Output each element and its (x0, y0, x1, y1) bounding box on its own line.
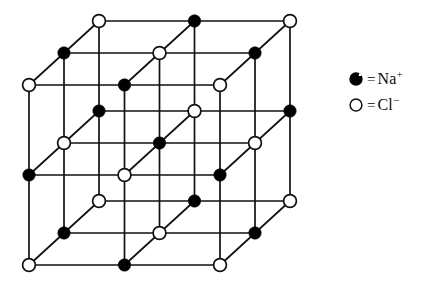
lattice-diagram (0, 0, 445, 290)
lattice-node-sodium (249, 227, 261, 239)
lattice-node-chloride (153, 227, 166, 240)
lattice-node-chloride (23, 79, 36, 92)
lattice-node-sodium (93, 105, 105, 117)
filled-circle-icon (348, 71, 364, 87)
lattice-node-chloride (153, 47, 166, 60)
lattice-nodes (23, 15, 297, 272)
lattice-node-sodium (118, 259, 130, 271)
lattice-node-chloride (214, 79, 227, 92)
lattice-node-chloride (249, 137, 262, 150)
lattice-node-sodium (23, 169, 35, 181)
lattice-node-sodium (249, 47, 261, 59)
legend-label-sodium: Na+ (377, 71, 402, 87)
lattice-node-chloride (284, 15, 297, 28)
lattice-node-chloride (284, 195, 297, 208)
lattice-node-sodium (58, 227, 70, 239)
lattice-node-chloride (93, 15, 106, 28)
lattice-node-chloride (23, 259, 36, 272)
lattice-node-sodium (118, 79, 130, 91)
lattice-node-sodium (153, 137, 165, 149)
legend-item-chloride: = Cl− (348, 92, 443, 118)
legend: = Na+ = Cl− (348, 66, 443, 118)
nacl-lattice-figure: = Na+ = Cl− (0, 0, 445, 290)
lattice-node-sodium (58, 47, 70, 59)
legend-label-chloride: Cl− (377, 97, 399, 113)
open-circle-icon (348, 97, 364, 113)
legend-item-sodium: = Na+ (348, 66, 443, 92)
legend-equals-chloride: = (367, 98, 375, 113)
lattice-node-sodium (284, 105, 296, 117)
lattice-node-sodium (188, 195, 200, 207)
lattice-node-chloride (188, 105, 201, 118)
lattice-node-chloride (118, 169, 131, 182)
lattice-node-chloride (58, 137, 71, 150)
lattice-node-sodium (214, 169, 226, 181)
legend-equals-sodium: = (367, 72, 375, 87)
lattice-node-chloride (214, 259, 227, 272)
lattice-node-chloride (93, 195, 106, 208)
lattice-node-sodium (188, 15, 200, 27)
